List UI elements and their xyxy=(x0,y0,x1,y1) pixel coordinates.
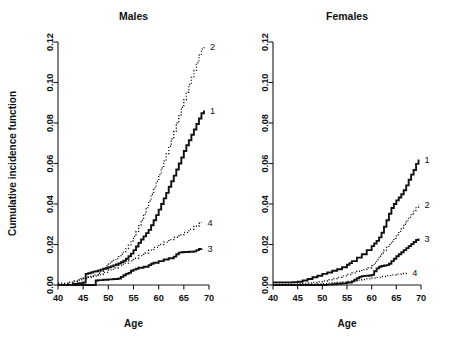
curve-label-3: 3 xyxy=(207,244,212,254)
x-tick-label: 60 xyxy=(154,293,164,303)
x-tick-label: 50 xyxy=(103,293,113,303)
panel-title: Males xyxy=(119,10,148,22)
y-tick-label: 0.12 xyxy=(260,33,270,51)
curve-series-1 xyxy=(273,159,419,282)
x-tick-label: 45 xyxy=(293,293,303,303)
y-tick-label: 0.10 xyxy=(260,74,270,92)
panel-title: Females xyxy=(326,10,368,22)
x-tick-label: 40 xyxy=(53,293,63,303)
y-axis-title: Cumulative incidence function xyxy=(7,91,18,236)
y-tick-label: 0.06 xyxy=(260,155,270,173)
y-tick-label: 0.04 xyxy=(260,194,270,213)
x-tick-label: 45 xyxy=(78,293,88,303)
y-tick-label: 0.12 xyxy=(45,33,55,51)
x-tick-label: 65 xyxy=(179,293,189,303)
y-tick-label: 0.00 xyxy=(260,276,270,294)
curve-label-4: 4 xyxy=(412,268,417,278)
x-tick-label: 40 xyxy=(268,293,278,303)
y-tick-label: 0.02 xyxy=(260,236,270,254)
x-axis-title: Age xyxy=(124,318,143,329)
curve-label-3: 3 xyxy=(425,234,430,244)
chart-svg-females: Females0.000.020.040.060.080.100.1240455… xyxy=(228,0,456,347)
y-tick-label: 0.08 xyxy=(45,114,55,132)
curve-label-2: 2 xyxy=(210,42,215,52)
y-tick-label: 0.02 xyxy=(45,236,55,254)
chart-panel-females: Females0.000.020.040.060.080.100.1240455… xyxy=(228,0,456,347)
x-axis-title: Age xyxy=(338,318,357,329)
chart-panel-males: Males0.000.020.040.060.080.100.124045505… xyxy=(0,0,228,347)
y-tick-label: 0.08 xyxy=(260,114,270,132)
x-tick-label: 70 xyxy=(416,293,426,303)
x-tick-label: 70 xyxy=(204,293,214,303)
x-tick-label: 50 xyxy=(317,293,327,303)
curve-label-2: 2 xyxy=(425,200,430,210)
y-tick-label: 0.04 xyxy=(45,194,55,213)
curve-label-1: 1 xyxy=(210,106,215,116)
y-tick-label: 0.00 xyxy=(45,276,55,294)
cumulative-incidence-figure: Males0.000.020.040.060.080.100.124045505… xyxy=(0,0,456,347)
chart-svg-males: Males0.000.020.040.060.080.100.124045505… xyxy=(0,0,228,347)
curve-series-3 xyxy=(273,238,419,285)
curve-series-1 xyxy=(58,110,204,285)
x-tick-label: 55 xyxy=(128,293,138,303)
y-tick-label: 0.10 xyxy=(45,74,55,92)
x-tick-label: 55 xyxy=(342,293,352,303)
curve-label-4: 4 xyxy=(207,218,212,228)
y-tick-label: 0.06 xyxy=(45,155,55,173)
curve-series-2 xyxy=(273,204,419,284)
x-tick-label: 60 xyxy=(367,293,377,303)
curve-label-1: 1 xyxy=(425,155,430,165)
x-tick-label: 65 xyxy=(391,293,401,303)
curve-series-2 xyxy=(58,46,204,283)
